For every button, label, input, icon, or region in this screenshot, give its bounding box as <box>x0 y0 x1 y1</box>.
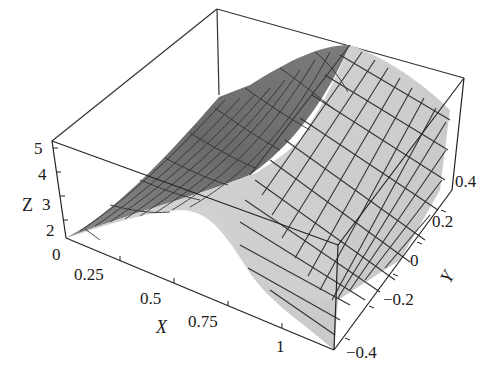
z-tick-3: 3 <box>42 196 51 213</box>
z-tick-4: 4 <box>38 166 47 183</box>
z-tick-0: 0 <box>52 246 61 263</box>
z-tick-5: 5 <box>34 140 43 157</box>
x-tick-0.75: 0.75 <box>188 313 218 330</box>
surface-plot <box>0 0 497 381</box>
surface-mid-fill <box>66 173 338 300</box>
x-tick-0.25: 0.25 <box>74 266 104 283</box>
y-tick-0: 0 <box>410 252 419 269</box>
y-tick-neg-0.4: −0.4 <box>346 344 377 361</box>
x-tick-1: 1 <box>276 338 285 355</box>
z-tick-2: 2 <box>46 222 55 239</box>
z-axis-ticks <box>53 148 68 220</box>
z-axis-title: Z <box>22 196 33 214</box>
x-tick-0.5: 0.5 <box>140 290 161 307</box>
y-tick-0.4: 0.4 <box>455 173 476 190</box>
y-tick-0.2: 0.2 <box>432 213 453 230</box>
x-axis-title: X <box>156 318 167 336</box>
y-tick-neg-0.2: −0.2 <box>383 291 414 308</box>
